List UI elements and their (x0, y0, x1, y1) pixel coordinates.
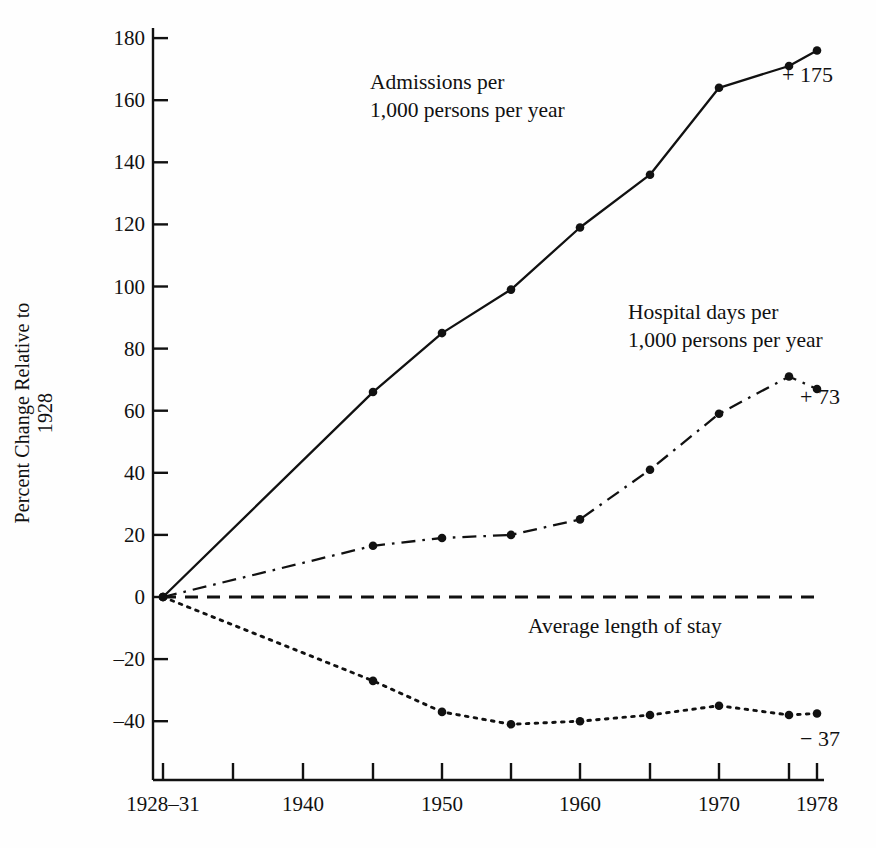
length-of-stay-label-line-1: Average length of stay (528, 612, 722, 640)
data-point (785, 372, 794, 381)
admissions-label-line-1: Admissions per (370, 68, 565, 96)
y-tick-label: 160 (114, 88, 146, 112)
y-tick-label: 140 (114, 150, 146, 174)
data-point (813, 709, 822, 718)
hospital-days-label: Hospital days per1,000 persons per year (628, 298, 823, 355)
length-of-stay-label: Average length of stay (528, 612, 722, 640)
x-tick-label: 1970 (698, 792, 740, 816)
chart-figure: Percent Change Relative to 1928 18016014… (0, 0, 876, 848)
y-tick-group (153, 38, 168, 721)
y-tick-label: 60 (124, 399, 145, 423)
data-point (576, 515, 585, 524)
data-point (438, 708, 447, 717)
x-tick-label-group: 1928–3119401950196019701978 (126, 792, 838, 816)
y-tick-label: 120 (114, 212, 146, 236)
hospital-days-label-line-1: Hospital days per (628, 298, 823, 326)
data-point (369, 388, 378, 397)
data-point (576, 223, 585, 232)
hospital-days-label-line-2: 1,000 persons per year (628, 326, 823, 354)
hospital-days-end-label: + 73 (800, 384, 840, 410)
data-point (813, 46, 822, 55)
data-point (646, 711, 655, 720)
data-point (715, 83, 724, 92)
y-tick-label: 180 (114, 26, 146, 50)
data-point (369, 541, 378, 550)
data-point (646, 170, 655, 179)
x-tick-label: 1960 (559, 792, 601, 816)
data-point (715, 410, 724, 419)
data-point (576, 717, 585, 726)
data-point (438, 329, 447, 338)
y-tick-label: –40 (113, 709, 146, 733)
data-point (715, 701, 724, 710)
y-tick-label-group: 180160140120100806040200–20–40 (113, 26, 146, 733)
y-tick-label: 100 (114, 275, 146, 299)
admissions-label: Admissions per1,000 persons per year (370, 68, 565, 125)
chart-canvas: 180160140120100806040200–20–40 1928–3119… (0, 0, 876, 848)
data-point (507, 720, 516, 729)
x-tick-label: 1940 (282, 792, 324, 816)
length-of-stay-end-label: − 37 (800, 726, 840, 752)
data-point (785, 711, 794, 720)
x-tick-label: 1978 (796, 792, 838, 816)
data-point (507, 285, 516, 294)
y-tick-label: 40 (124, 461, 145, 485)
data-point (438, 534, 447, 543)
x-tick-label: 1950 (421, 792, 463, 816)
x-tick-group (163, 763, 817, 780)
y-tick-label: 0 (135, 585, 146, 609)
data-point (507, 531, 516, 540)
admissions-end-label: + 175 (782, 62, 833, 88)
y-tick-label: 20 (124, 523, 145, 547)
data-point (646, 465, 655, 474)
y-tick-label: –20 (113, 647, 146, 671)
admissions-label-line-2: 1,000 persons per year (370, 96, 565, 124)
chart-axes (153, 28, 824, 780)
x-tick-label: 1928–31 (126, 792, 200, 816)
data-point (369, 677, 378, 686)
y-tick-label: 80 (124, 337, 145, 361)
